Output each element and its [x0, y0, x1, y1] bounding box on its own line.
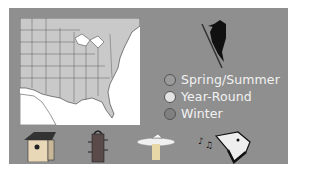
- feeder-icon: [86, 128, 110, 168]
- range-map: [20, 18, 140, 125]
- swatch-icon: [164, 74, 176, 86]
- birdhouse-icon: [22, 130, 58, 166]
- svg-text:♪: ♪: [198, 136, 204, 146]
- birdbath-icon: [136, 132, 176, 166]
- woodpecker-icon: [200, 18, 230, 68]
- legend: Spring/Summer Year-Round Winter: [164, 71, 280, 122]
- swatch-icon: [164, 91, 176, 103]
- us-map-icon: [20, 18, 140, 125]
- swatch-icon: [164, 108, 176, 120]
- legend-item-year-round: Year-Round: [164, 88, 280, 105]
- svg-text:♫: ♫: [205, 140, 213, 150]
- legend-item-winter: Winter: [164, 105, 280, 122]
- legend-item-spring-summer: Spring/Summer: [164, 71, 280, 88]
- bird-song-icon: ♪ ♫: [198, 130, 254, 168]
